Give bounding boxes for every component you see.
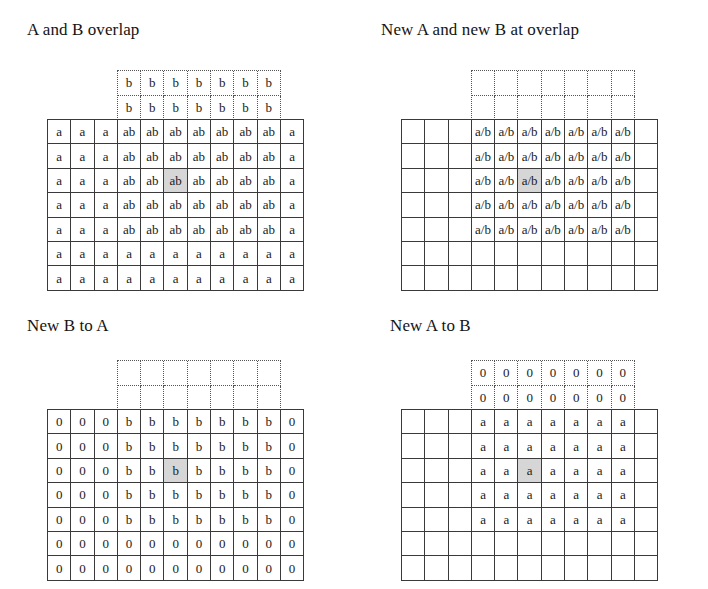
highlighted-cell: ab [164, 169, 187, 193]
solid-cell: ab [141, 169, 164, 193]
panel-title-new-b-to-a: New B to A [27, 316, 109, 336]
solid-cell: ab [164, 218, 187, 242]
solid-cell: ab [211, 193, 234, 217]
dotted-cell [588, 96, 611, 120]
dotted-cell [164, 361, 187, 385]
solid-cell: ab [188, 120, 211, 144]
solid-cell: a/b [588, 193, 611, 217]
solid-cell: ab [234, 169, 257, 193]
solid-cell: a [118, 266, 141, 290]
solid-cell: ab [211, 218, 234, 242]
dotted-cell [612, 96, 635, 120]
solid-cell: 0 [281, 532, 304, 556]
solid-cell [402, 120, 425, 144]
solid-cell: ab [118, 144, 141, 168]
solid-cell: a [48, 120, 71, 144]
solid-cell [402, 144, 425, 168]
solid-cell: ab [258, 120, 281, 144]
solid-cell: 0 [164, 532, 187, 556]
solid-cell: 0 [281, 459, 304, 483]
solid-cell [518, 266, 541, 290]
solid-cell [425, 508, 448, 532]
solid-cell: 0 [48, 434, 71, 458]
solid-cell [472, 556, 495, 580]
solid-cell [449, 459, 472, 483]
solid-cell [635, 556, 658, 580]
solid-cell [449, 193, 472, 217]
solid-cell [402, 266, 425, 290]
solid-cell: a/b [612, 120, 635, 144]
solid-cell: ab [234, 120, 257, 144]
solid-cell: ab [188, 144, 211, 168]
solid-cell: b [188, 483, 211, 507]
solid-cell: a [565, 434, 588, 458]
solid-cell: a/b [472, 218, 495, 242]
dotted-cell: 0 [612, 386, 635, 410]
solid-cell [449, 120, 472, 144]
dotted-cell [542, 71, 565, 95]
solid-cell: a [211, 266, 234, 290]
solid-cell: 0 [118, 532, 141, 556]
solid-cell: 0 [234, 556, 257, 580]
solid-cell: b [164, 434, 187, 458]
solid-cell [635, 434, 658, 458]
solid-cell: a [211, 242, 234, 266]
solid-cell [542, 556, 565, 580]
solid-cell: a/b [565, 218, 588, 242]
solid-cell: b [118, 459, 141, 483]
solid-cell [565, 242, 588, 266]
solid-cell: b [211, 483, 234, 507]
solid-cell: b [141, 459, 164, 483]
solid-cell: 0 [141, 532, 164, 556]
dotted-cell [118, 361, 141, 385]
solid-cell: 0 [258, 532, 281, 556]
dotted-cell [472, 71, 495, 95]
solid-cell: a [141, 242, 164, 266]
solid-cell: ab [164, 120, 187, 144]
solid-cell: a/b [588, 120, 611, 144]
solid-cell [425, 410, 448, 434]
solid-cell: 0 [141, 556, 164, 580]
solid-cell: a [141, 266, 164, 290]
solid-cell: a [542, 410, 565, 434]
solid-cell: 0 [71, 434, 94, 458]
solid-cell [425, 144, 448, 168]
solid-cell [495, 266, 518, 290]
solid-cell: a [518, 434, 541, 458]
solid-cell: a/b [588, 144, 611, 168]
solid-cell: 0 [281, 483, 304, 507]
solid-cell: b [211, 434, 234, 458]
solid-cell: a/b [472, 193, 495, 217]
solid-cell [495, 556, 518, 580]
solid-cell: ab [211, 144, 234, 168]
solid-cell: a [472, 508, 495, 532]
solid-cell: a/b [472, 169, 495, 193]
solid-cell: a [542, 508, 565, 532]
solid-cell: 0 [48, 483, 71, 507]
solid-cell: a [281, 120, 304, 144]
solid-cell [402, 193, 425, 217]
solid-cell: ab [118, 193, 141, 217]
solid-cell [402, 218, 425, 242]
solid-cell [402, 242, 425, 266]
solid-cell: b [188, 434, 211, 458]
solid-cell: 0 [118, 556, 141, 580]
dotted-cell [164, 386, 187, 410]
solid-cell [565, 556, 588, 580]
solid-cell: b [141, 483, 164, 507]
solid-cell: b [164, 508, 187, 532]
solid-cell: 0 [211, 532, 234, 556]
dotted-cell: b [211, 96, 234, 120]
solid-cell: a/b [565, 169, 588, 193]
solid-grid-a-new-a-to-b: aaaaaaaaaaaaaaaaaaaaaaaaaaaaaaaaaaa [401, 409, 658, 581]
highlighted-cell: b [164, 459, 187, 483]
solid-cell: a/b [542, 120, 565, 144]
solid-cell: a [495, 483, 518, 507]
solid-cell [588, 556, 611, 580]
solid-cell: b [234, 434, 257, 458]
solid-cell: b [234, 459, 257, 483]
solid-cell: a [95, 242, 118, 266]
solid-grid-a-new-a-and-new-b-at-overlap: a/ba/ba/ba/ba/ba/ba/ba/ba/ba/ba/ba/ba/ba… [401, 119, 658, 291]
solid-cell: 0 [71, 532, 94, 556]
solid-cell: b [118, 410, 141, 434]
